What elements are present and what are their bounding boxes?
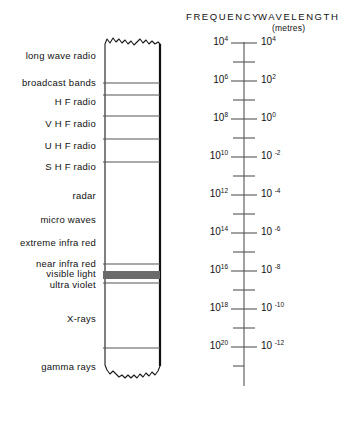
band-label: X-rays — [67, 314, 96, 324]
spectrum-bar-graphic — [102, 30, 170, 396]
visible-light-stripe — [103, 271, 160, 279]
band-label: extreme infra red — [20, 238, 96, 248]
spectrum-bar — [102, 30, 170, 396]
wavelength-tick-label: 104 — [261, 37, 276, 47]
wavelength-tick-label: 10-4 — [261, 189, 280, 199]
visible-light-band-fill — [103, 271, 160, 279]
band-label: visible light — [46, 269, 96, 279]
wavelength-tick-label: 10-2 — [261, 151, 280, 161]
band-label: broadcast bands — [22, 78, 96, 88]
wavelength-column-header: WAVELENGTH — [258, 11, 339, 22]
wavelength-tick-label: 10-12 — [261, 341, 284, 351]
spectrum-outline-shape — [105, 38, 160, 378]
wavelength-tick-label: 10-10 — [261, 303, 284, 313]
frequency-tick-label: 104 — [200, 37, 228, 47]
band-label: S H F radio — [45, 162, 96, 172]
frequency-tick-label: 108 — [200, 113, 228, 123]
frequency-tick-label: 106 — [200, 75, 228, 85]
frequency-column-header: FREQUENCY — [186, 11, 260, 22]
band-label-column: long wave radiobroadcast bandsH F radioV… — [0, 0, 100, 421]
frequency-tick-label: 1010 — [200, 151, 228, 161]
band-label: ultra violet — [50, 280, 96, 290]
band-label: V H F radio — [45, 119, 96, 129]
band-label: H F radio — [55, 97, 96, 107]
band-label: U H F radio — [45, 141, 96, 151]
electromagnetic-spectrum-figure: FREQUENCY WAVELENGTH (metres) long wave … — [0, 0, 356, 421]
frequency-wavelength-scale: 1041061081010101210141016101810201041021… — [200, 30, 356, 400]
wavelength-tick-label: 10-8 — [261, 265, 280, 275]
band-label: gamma rays — [41, 362, 96, 372]
frequency-tick-label: 1014 — [200, 227, 228, 237]
band-label: micro waves — [40, 215, 96, 225]
wavelength-tick-label: 10-6 — [261, 227, 280, 237]
wavelength-tick-label: 102 — [261, 75, 276, 85]
frequency-tick-label: 1018 — [200, 303, 228, 313]
wavelength-tick-label: 100 — [261, 113, 276, 123]
band-label: long wave radio — [26, 51, 96, 61]
frequency-tick-label: 1020 — [200, 341, 228, 351]
frequency-tick-label: 1016 — [200, 265, 228, 275]
band-label: radar — [73, 191, 96, 201]
frequency-tick-label: 1012 — [200, 189, 228, 199]
